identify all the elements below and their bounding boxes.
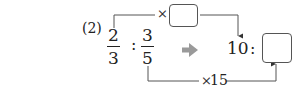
right-arrow-icon [182, 43, 198, 57]
denominator: 3 [108, 47, 119, 67]
problem-label: (2) [82, 20, 102, 36]
ratio-colon-right: : [250, 39, 255, 58]
numerator: 2 [107, 27, 120, 46]
fraction-two-thirds: 2 3 [107, 27, 120, 67]
top-multiply-sign: × [157, 6, 168, 21]
bottom-multiplier-value: 15 [210, 72, 228, 88]
ratio-colon-left: : [131, 35, 136, 54]
top-multiplier-answer-box[interactable] [169, 4, 198, 27]
right-ratio-answer-box[interactable] [262, 33, 292, 63]
fraction-three-fifths: 3 5 [141, 27, 154, 67]
right-ratio-first: 10 [227, 38, 249, 58]
numerator: 3 [141, 27, 154, 46]
denominator: 5 [142, 47, 153, 67]
